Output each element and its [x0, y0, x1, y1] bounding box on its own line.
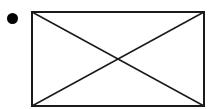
bullet-dot-icon	[7, 13, 18, 24]
image-placeholder-icon	[31, 11, 205, 107]
